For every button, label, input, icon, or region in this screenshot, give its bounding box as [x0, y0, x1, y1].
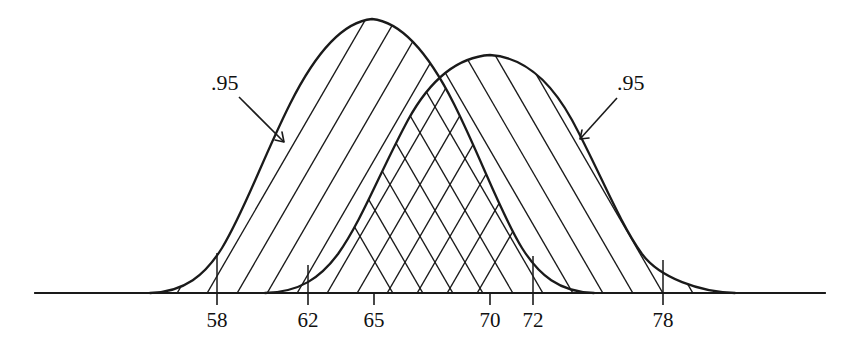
axis-tick-label-72: 72	[523, 308, 544, 332]
distribution-chart-canvas: 58 62 65 70 72 78 .95 .95	[0, 0, 853, 356]
right-confidence-annotation: .95	[580, 70, 645, 139]
right-curve-hatching	[200, 0, 750, 340]
axis-ticks	[217, 293, 663, 305]
axis-tick-label-62: 62	[298, 308, 319, 332]
left-confidence-annotation: .95	[211, 70, 284, 142]
right-confidence-label: .95	[617, 70, 645, 95]
right-annotation-arrow-shaft	[580, 98, 617, 139]
axis-tick-label-78: 78	[653, 308, 674, 332]
left-annotation-arrow-shaft	[239, 97, 284, 142]
axis-tick-label-65: 65	[364, 308, 385, 332]
axis-tick-label-70: 70	[480, 308, 501, 332]
left-confidence-label: .95	[211, 70, 239, 95]
axis-tick-label-58: 58	[207, 308, 228, 332]
statistics-figure: 58 62 65 70 72 78 .95 .95	[0, 0, 853, 356]
